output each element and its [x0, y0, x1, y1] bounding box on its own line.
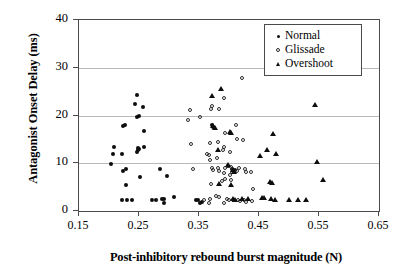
data-point-normal	[136, 148, 140, 152]
data-point-glissade	[227, 198, 231, 202]
data-point-glissade	[222, 201, 226, 205]
data-point-normal	[111, 152, 115, 156]
data-point-normal	[130, 198, 134, 202]
data-point-glissade	[207, 201, 211, 205]
scatter-plot-figure: Antagonist Onset Delay (ms) Post-inhibit…	[0, 0, 416, 276]
data-point-normal	[230, 167, 234, 171]
data-point-glissade	[211, 168, 215, 172]
legend-item-overshoot: Overshoot	[271, 57, 356, 71]
data-point-glissade	[229, 165, 233, 169]
data-point-overshoot	[273, 151, 279, 156]
data-point-glissade	[216, 140, 220, 144]
data-point-glissade	[223, 131, 227, 135]
data-point-glissade	[208, 197, 212, 201]
data-point-glissade	[231, 198, 235, 202]
data-point-glissade	[216, 166, 220, 170]
data-point-overshoot	[259, 195, 265, 200]
data-point-normal	[120, 198, 124, 202]
data-point-overshoot	[312, 102, 318, 107]
data-point-glissade	[225, 197, 229, 201]
data-point-glissade	[237, 166, 241, 170]
data-point-glissade	[222, 145, 226, 149]
data-point-glissade	[208, 141, 212, 145]
data-point-glissade	[220, 179, 224, 183]
legend-label: Glissade	[285, 44, 325, 56]
filled-triangle-icon	[271, 62, 285, 66]
data-point-overshoot	[270, 131, 276, 136]
data-point-overshoot	[218, 86, 224, 91]
data-point-glissade	[251, 187, 255, 191]
data-point-glissade	[214, 194, 218, 198]
data-point-glissade	[240, 76, 244, 80]
data-point-glissade	[228, 173, 232, 177]
data-point-glissade	[228, 150, 232, 154]
data-point-overshoot	[264, 147, 270, 152]
data-point-overshoot	[216, 181, 222, 186]
data-point-glissade	[244, 170, 248, 174]
data-point-normal	[154, 198, 158, 202]
data-point-normal	[165, 174, 169, 178]
legend-item-normal: Normal	[271, 29, 356, 43]
data-point-glissade	[235, 169, 239, 173]
y-tick-label: 20	[28, 108, 68, 121]
data-point-normal	[112, 145, 116, 149]
data-point-normal	[136, 146, 140, 150]
data-point-glissade	[230, 170, 234, 174]
data-point-overshoot	[245, 196, 251, 201]
data-point-glissade	[242, 198, 246, 202]
data-point-glissade	[215, 156, 219, 160]
data-point-glissade	[210, 104, 214, 108]
open-circle-icon	[271, 48, 285, 52]
data-point-overshoot	[268, 196, 274, 201]
data-point-glissade	[221, 148, 225, 152]
legend-item-glissade: Glissade	[271, 43, 356, 57]
data-point-glissade	[234, 123, 238, 127]
data-point-glissade	[243, 167, 247, 171]
data-point-normal	[196, 198, 200, 202]
data-point-overshoot	[209, 93, 215, 98]
data-point-glissade	[210, 166, 214, 170]
data-point-glissade	[249, 170, 253, 174]
data-point-glissade	[209, 107, 213, 111]
data-point-overshoot	[320, 177, 326, 182]
data-point-normal	[120, 152, 124, 156]
data-point-overshoot	[231, 169, 237, 174]
data-point-overshoot	[269, 180, 275, 185]
gridline	[79, 163, 379, 164]
data-point-normal	[133, 102, 137, 106]
data-point-glissade	[223, 166, 227, 170]
data-point-glissade	[235, 137, 239, 141]
data-point-glissade	[186, 118, 190, 122]
data-point-normal	[141, 105, 145, 109]
data-point-normal	[124, 183, 128, 187]
x-tick-label: 0.65	[355, 219, 401, 231]
data-point-overshoot	[239, 196, 245, 201]
data-point-glissade	[189, 142, 193, 146]
x-tick-label: 0.15	[55, 219, 101, 231]
data-point-normal	[124, 167, 128, 171]
data-point-overshoot	[261, 195, 267, 200]
data-point-normal	[162, 197, 166, 201]
filled-circle-icon	[271, 35, 285, 38]
gridline	[79, 116, 379, 117]
data-point-overshoot	[267, 179, 273, 184]
x-axis-title: Post-inhibitory rebound burst magnitude …	[48, 250, 404, 265]
data-point-normal	[232, 169, 236, 173]
data-point-normal	[158, 167, 162, 171]
data-point-glissade	[223, 177, 227, 181]
data-point-normal	[160, 197, 164, 201]
y-tick-label: 0	[28, 203, 68, 216]
legend-label: Overshoot	[285, 58, 333, 70]
data-point-overshoot	[228, 130, 234, 135]
data-point-overshoot	[295, 197, 301, 202]
data-point-glissade	[238, 199, 242, 203]
data-point-glissade	[250, 199, 254, 203]
data-point-overshoot	[286, 197, 292, 202]
data-point-overshoot	[230, 167, 236, 172]
data-point-normal	[123, 123, 127, 127]
data-point-normal	[138, 175, 142, 179]
data-point-glissade	[209, 182, 213, 186]
data-point-glissade	[208, 158, 212, 162]
data-point-glissade	[236, 198, 240, 202]
data-point-overshoot	[230, 196, 236, 201]
